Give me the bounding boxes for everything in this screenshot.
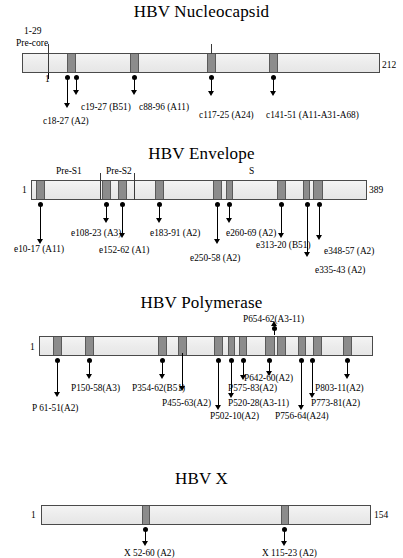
epitope-box <box>142 506 150 524</box>
epitope-label: P803-11(A2) <box>315 383 364 393</box>
epitope-label: e260-69 (A2) <box>226 228 276 238</box>
domain-label-precore: Pre-core <box>16 38 48 48</box>
epitope-label: c18-27 (A2) <box>43 116 89 126</box>
epitope-leader-line <box>40 206 41 240</box>
epitope-arrow-head <box>316 235 322 240</box>
epitope-arrow-head <box>142 541 148 546</box>
epitope-arrow-head <box>54 392 60 397</box>
epitope-label: P756-64(A24) <box>275 411 329 421</box>
protein-bar-x <box>41 505 371 525</box>
marker-line-c117 <box>211 44 212 54</box>
epitope-box <box>343 337 352 355</box>
epitope-leader-line <box>67 79 68 104</box>
epitope-box <box>67 54 76 72</box>
epitope-arrow-head <box>278 233 284 238</box>
panel-nucleocapsid: HBV Nucleocapsid 1-29 Pre-core 1 212 c18… <box>0 0 403 140</box>
epitope-box <box>313 181 323 199</box>
start-position-polymerase: 1 <box>30 342 35 352</box>
epitope-label: c19-27 (B51) <box>81 102 131 112</box>
epitope-label: P520-28(A3-11) <box>228 398 289 408</box>
epitope-box <box>213 181 222 199</box>
epitope-leader-line <box>312 362 313 394</box>
epitope-leader-line <box>281 206 282 234</box>
epitope-box <box>265 337 275 355</box>
epitope-box <box>226 181 233 199</box>
epitope-leader-line <box>301 362 302 406</box>
epitope-box <box>313 337 322 355</box>
epitope-box <box>228 337 235 355</box>
epitope-label: P773-81(A2) <box>311 398 360 408</box>
epitope-label: e152-62 (A1) <box>99 245 149 255</box>
panel-polymerase: HBV Polymerase P654-62(A3-11) 1 P 61-51(… <box>0 285 403 420</box>
panel-title-envelope: HBV Envelope <box>0 144 403 164</box>
epitope-arrow-head <box>156 218 162 223</box>
epitope-box <box>303 181 310 199</box>
epitope-arrow-head <box>208 91 214 96</box>
panel-title-x: HBV X <box>0 469 403 489</box>
epitope-box <box>207 54 216 72</box>
epitope-label: P575-83(A2) <box>228 383 277 393</box>
epitope-label: P502-10(A2) <box>210 411 259 421</box>
epitope-label: P354-62(B51) <box>132 383 185 393</box>
end-position-x: 154 <box>374 510 388 520</box>
domain-divider-pre-s2-s <box>134 173 135 200</box>
epitope-box <box>158 337 167 355</box>
epitope-label: c141-51 (A11-A31-A68) <box>266 110 359 120</box>
epitope-box <box>155 181 164 199</box>
start-position-x: 1 <box>31 510 36 520</box>
domain-divider-precore <box>48 44 49 73</box>
epitope-box <box>269 54 278 72</box>
epitope-arrow-head <box>131 90 137 95</box>
epitope-arrow-head <box>215 405 221 410</box>
epitope-arrow-head <box>103 218 109 223</box>
epitope-arrow-head <box>214 239 220 244</box>
epitope-box <box>277 181 286 199</box>
epitope-label: X 115-23 (A2) <box>262 548 317 558</box>
domain-label-pre-s1: Pre-S1 <box>56 166 82 176</box>
epitope-box <box>118 181 127 199</box>
epitope-arrow-head <box>119 233 125 238</box>
end-position-nucleocapsid: 212 <box>382 60 396 70</box>
epitope-box <box>298 337 306 355</box>
epitope-box <box>130 54 139 72</box>
epitope-box <box>277 337 286 355</box>
epitope-box <box>214 337 223 355</box>
epitope-leader-line <box>274 330 275 335</box>
domain-divider-pre-s1-pre-s2 <box>100 173 101 200</box>
domain-label-pre-s2: Pre-S2 <box>106 166 132 176</box>
start-position-envelope: 1 <box>22 185 27 195</box>
epitope-label: e108-23 (A3) <box>71 228 121 238</box>
epitope-arrow-head <box>226 218 232 223</box>
panel-title-nucleocapsid: HBV Nucleocapsid <box>0 2 403 22</box>
panel-x: HBV X 1 154 X 52-60 (A2) X 115-23 (A2) <box>0 445 403 553</box>
epitope-label: e335-43 (A2) <box>315 265 365 275</box>
epitope-label: P150-58(A3) <box>71 383 120 393</box>
panel-envelope: HBV Envelope Pre-S1 Pre-S2 S 1 389 e10-1… <box>0 140 403 285</box>
epitope-label: c88-96 (A11) <box>139 102 189 112</box>
end-position-envelope: 389 <box>369 185 383 195</box>
epitope-label: e348-57 (A2) <box>324 246 374 256</box>
epitope-label: e313-20 (B51) <box>256 240 310 250</box>
epitope-leader-line <box>319 206 320 236</box>
epitope-label: X 52-60 (A2) <box>124 548 175 558</box>
epitope-arrow-head <box>159 374 165 379</box>
epitope-arrow-head <box>298 405 304 410</box>
start-tick-nucleocapsid <box>48 73 49 79</box>
epitope-leader-line <box>217 206 218 240</box>
epitope-arrow-head <box>64 103 70 108</box>
epitope-box <box>53 337 62 355</box>
epitope-arrow-head <box>281 541 287 546</box>
epitope-label: P 61-51(A2) <box>32 403 78 413</box>
epitope-box <box>85 337 94 355</box>
epitope-arrow-head <box>270 91 276 96</box>
epitope-box <box>36 181 45 199</box>
epitope-arrow-head <box>179 386 185 391</box>
epitope-arrow-head <box>271 321 277 326</box>
epitope-leader-line <box>122 206 123 234</box>
epitope-leader-line <box>182 353 183 387</box>
epitope-box <box>102 181 111 199</box>
epitope-leader-line <box>307 206 308 253</box>
epitope-box <box>239 337 247 355</box>
epitope-leader-line <box>57 362 58 393</box>
epitope-label: P455-63(A2) <box>162 398 211 408</box>
